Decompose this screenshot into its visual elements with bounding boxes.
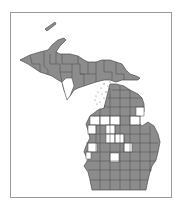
- county-absent: [124, 143, 132, 152]
- county-absent: [115, 134, 124, 143]
- county-absent: [106, 125, 115, 134]
- isle-royale: [45, 22, 56, 31]
- county-absent: [106, 134, 115, 143]
- county-menominee-absent: [62, 78, 74, 100]
- michigan-county-map: [0, 0, 183, 210]
- county-absent: [86, 152, 91, 159]
- county-absent: [88, 125, 96, 134]
- county-absent: [88, 143, 97, 152]
- county-absent: [136, 107, 144, 116]
- county-absent: [90, 116, 100, 125]
- county-absent: [130, 116, 140, 125]
- county-absent: [100, 116, 110, 125]
- county-absent: [110, 153, 119, 162]
- county-absent: [110, 116, 120, 125]
